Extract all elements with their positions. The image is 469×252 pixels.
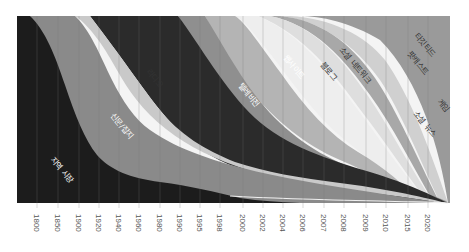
tick-label: 1995 — [195, 214, 204, 232]
tick-label: 2010 — [381, 214, 390, 232]
tick-label: 1980 — [155, 214, 164, 232]
tick-label: 1998 — [215, 214, 224, 232]
tick-label: 1920 — [94, 214, 103, 232]
tick-label: 2007 — [319, 214, 328, 232]
tick-label: 1990 — [175, 214, 184, 232]
tick-label: 2015 — [403, 214, 412, 232]
tick-label: 1800 — [32, 214, 41, 232]
tick-label: 2004 — [278, 214, 287, 232]
stacked-area-chart: 지역 시장 신문/잡지 라디오 텔레비전 웹사이트 블로그 소셜 네트워크 타깃… — [0, 0, 469, 252]
tick-label: 2002 — [258, 214, 267, 232]
tick-label: 2020 — [423, 214, 432, 232]
tick-label: 2000 — [238, 214, 247, 232]
tick-label: 2008 — [339, 214, 348, 232]
tick-label: 2009 — [361, 214, 370, 232]
tick-label: 1900 — [74, 214, 83, 232]
tick-label: 1960 — [134, 214, 143, 232]
tick-label: 2006 — [298, 214, 307, 232]
x-axis: 1800 1850 1900 1920 1940 1960 1980 1990 … — [32, 214, 432, 232]
tick-label: 1940 — [114, 214, 123, 232]
tick-label: 1850 — [53, 214, 62, 232]
